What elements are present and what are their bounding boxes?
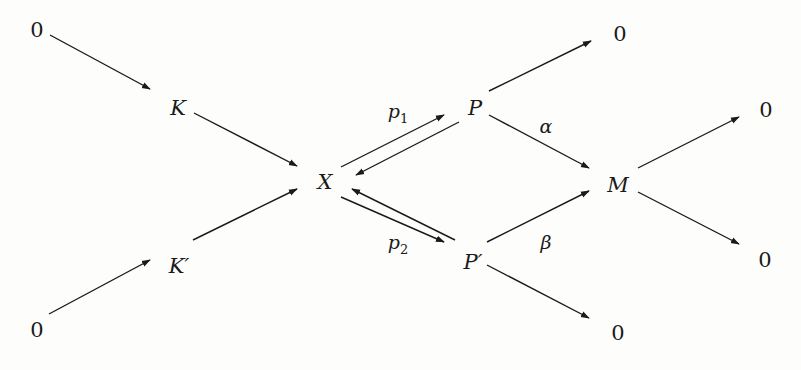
node-P-prime: P′ — [464, 250, 483, 274]
edge-label-p2: p2 — [388, 231, 408, 257]
edge-label-alpha: α — [540, 115, 553, 137]
node-source-bottom: 0 — [30, 318, 43, 342]
edge-label-p2-sub: 2 — [400, 242, 408, 257]
node-sink-P: 0 — [613, 22, 626, 46]
node-sink-M-bottom: 0 — [758, 248, 771, 272]
edge-M-to-sink-bottom — [638, 192, 739, 244]
edge-label-p1: p1 — [388, 100, 408, 126]
edge-P-to-sink — [489, 41, 591, 91]
edge-source-to-K — [50, 35, 150, 89]
edge-Pprime-to-M — [487, 191, 589, 242]
edge-Kprime-to-X — [193, 189, 297, 240]
edge-source-to-Kprime — [49, 260, 150, 314]
edge-M-to-sink-top — [638, 117, 739, 168]
edge-label-beta: β — [541, 231, 552, 253]
edge-Pprime-to-sink — [487, 265, 589, 318]
edge-label-p1-sub: 1 — [400, 111, 408, 126]
edge-P-to-X — [356, 122, 459, 175]
node-source-top: 0 — [30, 18, 43, 42]
node-K: K — [170, 96, 186, 120]
node-P: P — [468, 96, 482, 120]
edge-label-p1-base: p — [388, 100, 400, 122]
node-K-prime: K′ — [169, 254, 189, 278]
node-M: M — [607, 173, 629, 197]
node-X: X — [318, 170, 333, 194]
node-sink-P-prime: 0 — [611, 321, 624, 345]
edge-K-to-X — [194, 113, 297, 166]
edge-label-p2-base: p — [388, 231, 400, 253]
edges-layer — [0, 0, 801, 370]
reaction-diagram: 0 K X K′ 0 P P′ M 0 0 0 0 p1 p2 α β — [0, 0, 801, 370]
node-sink-M-top: 0 — [759, 98, 772, 122]
